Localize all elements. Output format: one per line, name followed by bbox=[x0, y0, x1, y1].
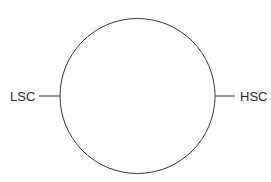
diagram-canvas bbox=[0, 0, 271, 182]
left-label: LSC bbox=[10, 90, 35, 103]
center-circle bbox=[60, 19, 215, 174]
right-label: HSC bbox=[240, 90, 267, 103]
